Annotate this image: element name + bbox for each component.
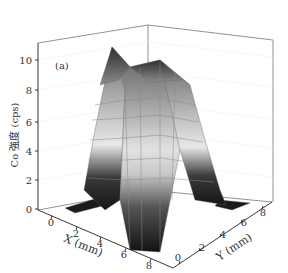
panel-label: (a) [55,60,69,71]
y-tick-label: 0 [175,252,181,263]
z-tick-label: 8 [26,85,32,96]
z-tick-label: 0 [26,204,32,215]
surface [65,47,250,252]
y-tick-label: 6 [241,217,247,228]
z-tick-label: 6 [26,117,32,128]
y-tick-label: 8 [260,207,266,218]
surface-plot: 0 2 4 6 8 10 Co 強度 (cps) (a) [0,0,288,273]
y-tick-label: 4 [220,229,226,240]
z-tick-label: 4 [26,146,32,157]
x-tick-label: 0 [48,217,54,228]
z-axis-label: Co 強度 (cps) [8,102,20,167]
y-tick-label: 2 [199,242,205,253]
z-axis [35,43,38,210]
z-tick-label: 10 [19,55,32,66]
z-tick-label: 2 [26,175,32,186]
x-tick-label: 6 [121,249,127,260]
x-tick-label: 8 [146,260,152,271]
